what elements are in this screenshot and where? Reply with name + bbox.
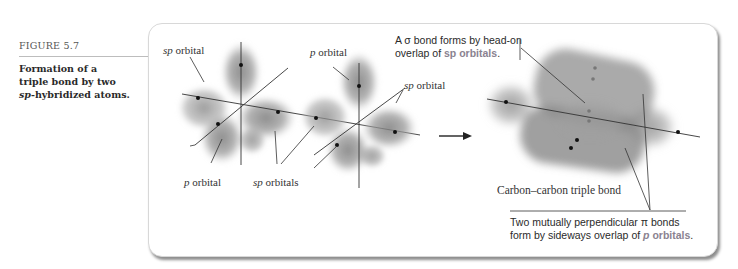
- triple-bond-label: Carbon–carbon triple bond: [497, 184, 621, 196]
- sigma-bond-note: A σ bond forms by head-on overlap of sp …: [395, 34, 522, 60]
- label-sp-orbital-left: sp orbital: [163, 44, 204, 56]
- triple-bond-product: [486, 43, 676, 176]
- left-sp-atom: [178, 42, 296, 164]
- label-sp-orbitals: sp orbitals: [253, 176, 299, 188]
- label-p-orbital-right: p orbital: [310, 46, 347, 58]
- label-p-orbital-left: p orbital: [184, 176, 221, 188]
- reaction-arrow-icon: [439, 132, 472, 140]
- label-sp-orbital-right: sp orbital: [404, 79, 445, 91]
- pi-bond-note: Two mutually perpendicular π bonds form …: [510, 216, 693, 242]
